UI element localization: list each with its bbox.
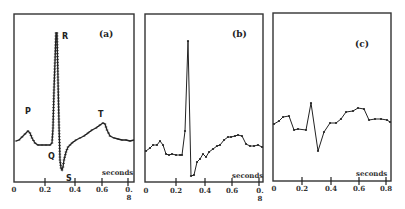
- x-tick-label: 0.6: [96, 185, 108, 194]
- panel-c-sample-markers: [273, 102, 391, 152]
- sample-marker: [386, 119, 388, 121]
- sample-marker: [249, 145, 251, 147]
- sample-marker: [212, 148, 214, 150]
- x-tick-label: 0.2: [39, 185, 51, 194]
- sample-marker: [230, 136, 232, 138]
- sample-marker: [380, 118, 382, 120]
- sample-marker: [389, 121, 391, 123]
- sample-marker: [196, 161, 198, 163]
- sample-marker: [223, 139, 225, 141]
- sample-marker: [278, 120, 280, 122]
- sample-marker: [297, 128, 299, 130]
- x-tick-label: 0.2: [170, 186, 182, 195]
- panel-c: 0 0.2 0.4 0.6 0.8 (c) seconds: [272, 13, 393, 193]
- sample-marker: [216, 145, 218, 147]
- sample-marker: [345, 111, 347, 113]
- sample-marker: [237, 134, 239, 136]
- sample-marker: [199, 158, 201, 160]
- x-tick-label: 0: [144, 186, 149, 195]
- sample-marker: [374, 118, 376, 120]
- sample-marker: [234, 135, 236, 137]
- x-tick-label: 8: [127, 193, 132, 202]
- panel-a: 0 0.2 0.4 0.6 0. 8 (a) seconds P Q R S T: [12, 14, 134, 202]
- sample-marker: [368, 119, 370, 121]
- sample-marker: [352, 110, 354, 112]
- sample-marker: [227, 136, 229, 138]
- x-tick-label: 0.8: [380, 184, 392, 193]
- sample-marker: [159, 140, 161, 142]
- x-tick-label: 0.4: [199, 186, 211, 195]
- sample-marker: [149, 147, 151, 149]
- panel-b-x-unit: seconds: [232, 171, 263, 180]
- sample-marker: [323, 131, 325, 133]
- panel-b-label: (b): [232, 29, 247, 39]
- panel-a-x-unit: seconds: [102, 168, 133, 177]
- ecg-figure: 0 0.2 0.4 0.6 0. 8 (a) seconds P Q R S T…: [0, 0, 405, 209]
- sample-marker: [253, 145, 255, 147]
- panel-b-sample-markers: [145, 40, 263, 177]
- sample-marker: [340, 118, 342, 120]
- sample-marker: [245, 143, 247, 145]
- panel-c-label: (c): [355, 39, 369, 49]
- sample-marker: [181, 154, 183, 156]
- sample-marker: [208, 151, 210, 153]
- sample-marker: [363, 108, 365, 110]
- sample-marker: [156, 144, 158, 146]
- sample-marker: [329, 122, 331, 124]
- sample-marker: [219, 144, 221, 146]
- sample-marker: [282, 116, 284, 118]
- panel-a-label: (a): [99, 29, 113, 39]
- x-tick-label: 0.4: [325, 184, 337, 193]
- x-tick-label: 0.6: [353, 184, 365, 193]
- panel-c-frame: [273, 13, 391, 181]
- sample-marker: [165, 153, 167, 155]
- wave-label-q: Q: [48, 152, 55, 161]
- wave-label-p: P: [25, 107, 31, 116]
- sample-marker: [190, 175, 192, 177]
- sample-marker: [335, 122, 337, 124]
- sample-marker: [187, 40, 189, 42]
- sample-marker: [288, 115, 290, 117]
- x-tick-label: 0.2: [296, 184, 308, 193]
- sample-marker: [273, 123, 275, 125]
- wave-label-r: R: [62, 32, 68, 41]
- sample-marker: [162, 144, 164, 146]
- panel-a-sample-markers: [15, 33, 132, 170]
- sample-marker: [305, 129, 307, 131]
- panel-a-frame: [14, 14, 134, 182]
- x-tick-label: 0: [12, 185, 17, 194]
- panel-c-ecg-trace: [274, 103, 390, 151]
- sample-marker: [257, 144, 259, 146]
- sample-marker: [261, 146, 263, 148]
- sample-marker: [293, 129, 295, 131]
- sample-marker: [357, 107, 359, 109]
- sample-marker: [241, 135, 243, 137]
- sample-marker: [205, 156, 207, 158]
- sample-marker: [171, 153, 173, 155]
- sample-marker: [310, 102, 312, 104]
- panel-b: 0 0.2 0.4 0.6 0. 8 (b) seconds: [144, 14, 264, 203]
- x-tick-label: 0.6: [226, 186, 238, 195]
- sample-marker: [193, 174, 195, 176]
- sample-marker: [202, 153, 204, 155]
- sample-marker: [317, 150, 319, 152]
- x-tick-label: 0.4: [69, 185, 81, 194]
- sample-marker: [168, 154, 170, 156]
- sample-marker: [145, 150, 147, 152]
- x-tick-label: 0: [272, 184, 277, 193]
- panel-a-ecg-trace: [16, 33, 134, 170]
- panel-c-x-unit: seconds: [356, 169, 387, 178]
- panel-b-ecg-trace: [146, 41, 262, 176]
- sample-marker: [179, 154, 181, 156]
- sample-marker: [184, 130, 186, 132]
- wave-label-t: T: [98, 110, 104, 119]
- sample-marker: [152, 144, 154, 146]
- sample-marker: [175, 154, 177, 156]
- panel-b-frame: [145, 14, 263, 182]
- x-tick-label: 8: [258, 194, 263, 203]
- wave-label-s: S: [66, 174, 72, 183]
